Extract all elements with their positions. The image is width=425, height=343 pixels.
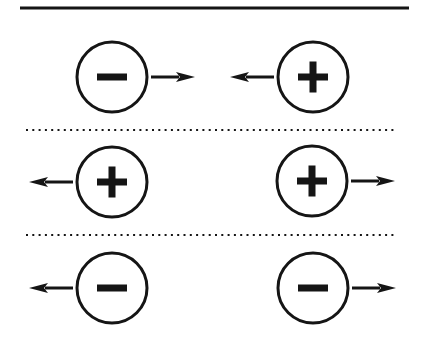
negative-charge-left (77, 42, 195, 112)
positive-charge-right (277, 146, 395, 216)
plus-vertical-bar (109, 167, 116, 198)
negative-charge-right (278, 253, 396, 323)
positive-charge-right (230, 42, 348, 112)
row-positive-charges-repel (29, 146, 395, 217)
arrow-left-icon (29, 283, 73, 293)
arrow-right-icon (351, 176, 395, 186)
minus-sign-icon (298, 285, 328, 292)
arrow-right-icon (352, 283, 396, 293)
positive-charge-left (29, 147, 147, 217)
arrow-left-icon (29, 177, 73, 187)
negative-charge-left (29, 253, 147, 323)
arrow-right-icon (151, 72, 195, 82)
minus-sign-icon (97, 74, 127, 81)
plus-vertical-bar (310, 62, 317, 93)
plus-vertical-bar (309, 166, 316, 197)
minus-sign-icon (97, 285, 127, 292)
charge-diagram (0, 0, 425, 343)
row-opposite-charges-attract (77, 42, 348, 112)
arrow-left-icon (230, 72, 274, 82)
row-negative-charges-repel (29, 253, 396, 323)
